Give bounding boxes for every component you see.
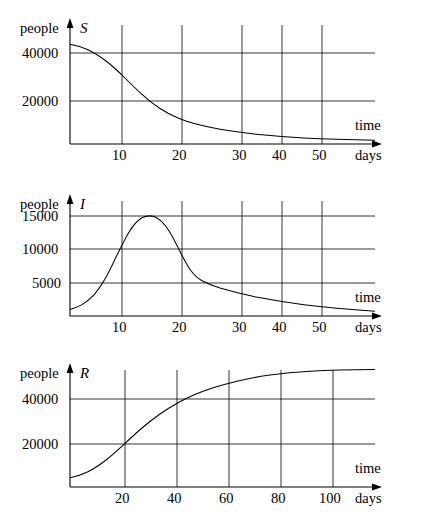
- chart-panel-r: people R 40000 20000 20 40 60 80 100 tim…: [0, 348, 433, 522]
- ytick-label-40000: 40000: [22, 391, 58, 407]
- xtick-label-50: 50: [312, 319, 327, 335]
- xtick-label-30: 30: [232, 147, 247, 163]
- ytick-label-10000: 10000: [22, 241, 58, 257]
- xtick-label-10: 10: [112, 147, 127, 163]
- y-axis-title-people: people: [20, 365, 59, 381]
- xtick-label-30: 30: [232, 319, 247, 335]
- xtick-label-40: 40: [167, 490, 182, 506]
- ytick-label-15000: 15000: [22, 208, 58, 224]
- curve-s: [70, 44, 375, 140]
- xtick-label-20: 20: [172, 147, 187, 163]
- xtick-label-20: 20: [115, 490, 130, 506]
- variable-label-s: S: [80, 20, 88, 36]
- y-axis-arrow-icon: [67, 18, 74, 28]
- sir-model-figure: people S 40000 20000 10 20 30 40 50 time…: [0, 0, 433, 522]
- chart-panel-i: people I 15000 10000 5000 10 20 30 40 50…: [0, 174, 433, 348]
- x-axis-unit-days: days: [355, 319, 382, 335]
- curve-i: [70, 216, 375, 311]
- xtick-label-40: 40: [272, 147, 287, 163]
- ytick-label-40000: 40000: [22, 45, 58, 61]
- x-axis-title-time: time: [355, 460, 381, 476]
- xtick-label-10: 10: [112, 319, 127, 335]
- variable-label-r: R: [79, 365, 89, 381]
- xtick-label-50: 50: [312, 147, 327, 163]
- xtick-label-20: 20: [172, 319, 187, 335]
- chart-r-svg: people R 40000 20000 20 40 60 80 100 tim…: [0, 348, 433, 522]
- x-axis-title-time: time: [355, 289, 381, 305]
- chart-panel-s: people S 40000 20000 10 20 30 40 50 time…: [0, 0, 433, 174]
- xtick-label-60: 60: [219, 490, 234, 506]
- y-axis-title-people: people: [20, 20, 59, 36]
- chart-i-svg: people I 15000 10000 5000 10 20 30 40 50…: [0, 174, 433, 348]
- chart-s-svg: people S 40000 20000 10 20 30 40 50 time…: [0, 0, 433, 174]
- xtick-label-100: 100: [319, 490, 341, 506]
- x-axis-unit-days: days: [355, 490, 382, 506]
- xtick-label-40: 40: [272, 319, 287, 335]
- x-axis-title-time: time: [355, 117, 381, 133]
- y-axis-arrow-icon: [67, 363, 74, 373]
- y-axis-arrow-icon: [67, 194, 74, 204]
- ytick-label-5000: 5000: [32, 275, 61, 291]
- ytick-label-20000: 20000: [22, 93, 58, 109]
- variable-label-i: I: [79, 196, 86, 212]
- ytick-label-20000: 20000: [22, 436, 58, 452]
- curve-r: [70, 370, 375, 478]
- xtick-label-80: 80: [271, 490, 286, 506]
- x-axis-unit-days: days: [355, 147, 382, 163]
